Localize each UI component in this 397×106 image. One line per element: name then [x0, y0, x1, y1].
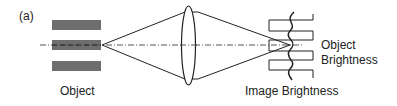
image-brightness-label: Image Brightness: [245, 84, 338, 98]
object-bar-top: [52, 20, 101, 30]
object-brightness-label-line1: Object: [321, 38, 356, 52]
object-brightness-label-line2: Brightness: [321, 53, 378, 67]
object-label: Object: [60, 84, 95, 98]
object-bar-bottom: [52, 61, 101, 71]
panel-label: (a): [19, 9, 34, 23]
